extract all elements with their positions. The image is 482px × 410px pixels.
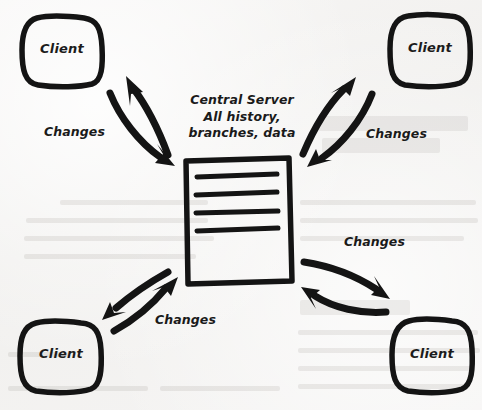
diagram-page: Central Server All history, branches, da… xyxy=(0,0,482,410)
client-bottom-right-label: Client xyxy=(388,346,476,361)
client-top-left-label: Client xyxy=(18,41,106,56)
document-line-3 xyxy=(196,211,278,213)
changes-label-bottom-left: Changes xyxy=(155,312,216,327)
document-line-4 xyxy=(197,228,278,231)
caption-line-1: Central Server xyxy=(166,92,318,109)
changes-label-top-right: Changes xyxy=(366,126,427,141)
client-bottom-right[interactable]: Client xyxy=(388,316,476,396)
client-bottom-left-label: Client xyxy=(16,346,106,361)
document-line-2 xyxy=(196,192,277,195)
document-icon xyxy=(186,158,292,284)
central-server-caption: Central Server All history, branches, da… xyxy=(166,92,318,142)
document-line-1 xyxy=(197,174,277,177)
changes-label-top-left: Changes xyxy=(44,124,105,139)
client-bottom-left[interactable]: Client xyxy=(16,318,106,396)
client-top-right[interactable]: Client xyxy=(386,12,474,90)
caption-line-2: All history, xyxy=(166,109,318,126)
changes-label-bottom-right: Changes xyxy=(344,234,405,249)
client-top-left[interactable]: Client xyxy=(18,14,106,90)
client-top-right-label: Client xyxy=(386,40,474,55)
version-control-diagram: Central Server All history, branches, da… xyxy=(0,0,482,410)
caption-line-3: branches, data xyxy=(166,125,318,142)
